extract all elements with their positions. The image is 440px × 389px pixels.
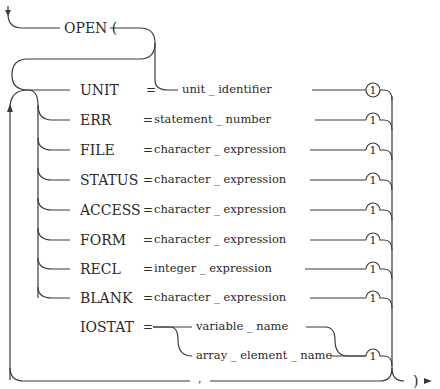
param-value-form: character _ expression (154, 234, 286, 246)
closing-paren: ) (413, 374, 418, 388)
param-value-file: character _ expression (154, 144, 286, 156)
param-value-access: character _ expression (154, 204, 286, 216)
param-value-status: character _ expression (154, 174, 286, 186)
loop-arrow-icon (7, 104, 13, 112)
footnote-marker: 1 (367, 264, 379, 275)
footnote-marker: 1 (367, 205, 379, 216)
equals-sign: = (143, 144, 153, 156)
footnote-marker: 1 (367, 115, 379, 126)
equals-sign: = (143, 263, 153, 275)
entry-arrow-icon (5, 10, 11, 16)
footnote-marker: 1 (367, 145, 379, 156)
footnote-marker: 1 (367, 293, 379, 304)
footnote-marker: 1 (367, 351, 379, 362)
equals-sign: = (143, 114, 153, 126)
param-keyword-err: ERR (80, 113, 111, 127)
footnote-marker: 1 (367, 85, 379, 96)
equals-sign: = (143, 292, 153, 304)
param-value-err: statement _ number (154, 114, 271, 126)
entry-line (8, 6, 60, 28)
param-keyword-status: STATUS (80, 173, 138, 187)
equals-sign: = (143, 321, 153, 333)
param-keyword-iostat: IOSTAT (80, 320, 134, 334)
param-keyword-blank: BLANK (80, 291, 132, 305)
param-keyword-unit: UNIT (80, 83, 119, 97)
param-value-recl: integer _ expression (154, 263, 272, 275)
equals-sign: = (146, 84, 156, 96)
equals-sign: = (143, 174, 153, 186)
footnote-marker: 1 (367, 175, 379, 186)
param-keyword-form: FORM (80, 233, 126, 247)
param-value-iostat-array: array _ element _ name (196, 350, 332, 362)
param-value-iostat-variable: variable _ name (196, 321, 288, 333)
param-keyword-access: ACCESS (80, 203, 141, 217)
separator-comma: , (198, 373, 202, 385)
param-value-unit: unit _ identifier (182, 84, 272, 96)
equals-sign: = (143, 234, 153, 246)
param-keyword-recl: RECL (80, 262, 121, 276)
param-keyword-file: FILE (80, 143, 115, 157)
param-value-blank: character _ expression (154, 292, 286, 304)
open-keyword: OPEN ( (64, 21, 117, 35)
exit-arrow-icon (424, 378, 432, 384)
footnote-marker: 1 (367, 235, 379, 246)
equals-sign: = (143, 204, 153, 216)
